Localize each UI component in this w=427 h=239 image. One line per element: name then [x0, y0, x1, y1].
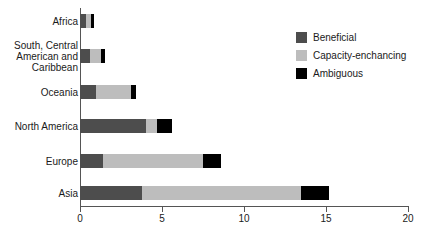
- category-label: North America: [15, 121, 78, 132]
- y-axis-line: [80, 8, 81, 206]
- bar-segment: [80, 85, 96, 99]
- category-label: Oceania: [41, 87, 78, 98]
- x-tick-label-2: 10: [238, 213, 249, 224]
- x-tick-label-3: 15: [320, 213, 331, 224]
- bar-segment: [80, 119, 146, 133]
- bar-segment: [301, 186, 329, 200]
- category-label: South, Central American and Caribbean: [14, 40, 78, 73]
- category-label: Europe: [46, 156, 78, 167]
- bar-segment: [80, 186, 142, 200]
- legend-label: Beneficial: [313, 32, 356, 43]
- x-tick-1: [162, 207, 163, 212]
- x-tick-label-1: 5: [159, 213, 165, 224]
- bar-segment: [157, 119, 172, 133]
- legend-swatch-icon: [296, 32, 307, 43]
- category-label: Africa: [52, 16, 78, 27]
- bar-segment: [101, 49, 104, 63]
- legend-item: Ambiguous: [296, 65, 406, 81]
- bar-segment: [142, 186, 301, 200]
- legend-label: Ambiguous: [313, 68, 363, 79]
- x-tick-3: [326, 207, 327, 212]
- bar-segment: [90, 49, 101, 63]
- bar-segment: [203, 154, 221, 168]
- bar-segment: [146, 119, 157, 133]
- bar-segment: [131, 85, 136, 99]
- bar-segment: [103, 154, 203, 168]
- stacked-bar-chart: 05101520 AfricaSouth, Central American a…: [0, 0, 427, 239]
- bar-row: [80, 85, 408, 99]
- bar-row: [80, 14, 408, 28]
- legend-item: Capacity-enchancing: [296, 47, 406, 63]
- chart-legend: BeneficialCapacity-enchancingAmbiguous: [296, 29, 406, 83]
- bar-segment: [80, 154, 103, 168]
- legend-swatch-icon: [296, 68, 307, 79]
- bar-segment: [91, 14, 94, 28]
- x-tick-label-0: 0: [77, 213, 83, 224]
- legend-item: Beneficial: [296, 29, 406, 45]
- legend-swatch-icon: [296, 50, 307, 61]
- bar-row: [80, 119, 408, 133]
- x-tick-4: [408, 207, 409, 212]
- bar-segment: [80, 49, 90, 63]
- bar-segment: [96, 85, 130, 99]
- x-tick-0: [80, 207, 81, 212]
- x-tick-2: [244, 207, 245, 212]
- x-tick-label-4: 20: [402, 213, 413, 224]
- legend-label: Capacity-enchancing: [313, 50, 406, 61]
- bar-row: [80, 154, 408, 168]
- category-label: Asia: [59, 188, 78, 199]
- bar-row: [80, 186, 408, 200]
